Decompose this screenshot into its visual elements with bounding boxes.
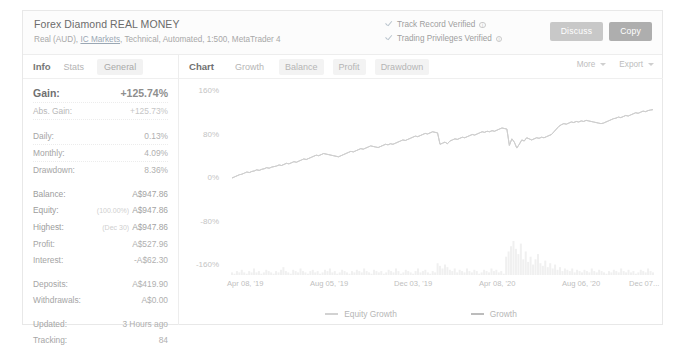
legend-item-equity-growth[interactable]: Equity Growth <box>325 309 397 319</box>
more-label: More <box>577 60 596 69</box>
system-title: Forex Diamond REAL MONEY <box>34 17 281 31</box>
chevron-down-icon <box>600 63 606 66</box>
subtitle-prefix: Real (AUD), <box>34 35 78 44</box>
x-axis-tick: Dec 07... <box>629 279 659 288</box>
stat-row-interest: Interest: -A$62.30 <box>33 253 168 268</box>
x-axis-tick: Dec 03, '19 <box>394 279 432 288</box>
stat-label: Balance: <box>33 187 66 201</box>
tab-general[interactable]: General <box>97 59 143 75</box>
stat-row-updated: Updated: 3 Hours ago <box>33 317 168 332</box>
legend-line-icon <box>471 313 484 314</box>
stat-value: A$419.90 <box>132 277 168 291</box>
stat-value: 4.09% <box>144 146 168 160</box>
spacer <box>33 179 168 187</box>
stat-label: Deposits: <box>33 277 68 291</box>
tab-stats[interactable]: Stats <box>64 62 85 72</box>
export-dropdown[interactable]: Export <box>619 60 654 69</box>
tab-chart[interactable]: Chart <box>189 58 220 75</box>
spacer <box>33 121 168 129</box>
stat-value: +125.74% <box>120 86 168 100</box>
info-icon[interactable]: i <box>479 22 486 29</box>
info-panel: Info Stats General Gain: +125.74% Abs. G… <box>23 55 179 325</box>
tab-profit[interactable]: Profit <box>333 59 366 75</box>
chevron-down-icon <box>648 63 654 66</box>
x-axis-tick: Aug 06, '20 <box>562 279 600 288</box>
stat-label: Withdrawals: <box>33 293 81 307</box>
stat-row-highest: Highest: (Dec 30)A$947.86 <box>33 220 168 236</box>
system-subtitle: Real (AUD), IC Markets, Technical, Autom… <box>34 33 281 46</box>
chart-tabs: Chart Growth Balance Profit Drawdown Mor… <box>179 55 663 79</box>
info-icon[interactable]: i <box>496 36 503 43</box>
legend-label: Growth <box>490 309 517 319</box>
chart-controls: More Export <box>577 60 654 69</box>
stat-row-equity: Equity: (100.00%)A$947.86 <box>33 203 168 219</box>
x-axis-tick: Apr 08, '19 <box>227 279 264 288</box>
export-label: Export <box>619 60 643 69</box>
check-icon <box>385 35 393 43</box>
tab-drawdown[interactable]: Drawdown <box>375 59 430 75</box>
stat-label: Highest: <box>33 220 64 234</box>
stat-row-daily: Daily: 0.13% <box>33 129 168 145</box>
stat-label: Gain: <box>33 86 60 100</box>
broker-link[interactable]: IC Markets <box>80 35 120 44</box>
check-icon <box>385 21 393 29</box>
y-axis-tick: 0% <box>179 173 219 182</box>
trading-privileges-label: Trading Privileges Verified <box>397 32 492 46</box>
stat-label: Tracking: <box>33 333 67 345</box>
card-header: Forex Diamond REAL MONEY Real (AUD), IC … <box>23 11 662 55</box>
stat-value: A$0.00 <box>141 293 168 307</box>
system-card: Forex Diamond REAL MONEY Real (AUD), IC … <box>22 10 663 325</box>
equity-percent-note: (100.00%) <box>97 207 129 214</box>
tab-growth[interactable]: Growth <box>229 59 270 75</box>
verification-badges: Track Record Verified i Trading Privileg… <box>385 18 502 46</box>
x-axis-tick: Aug 05, '19 <box>310 279 348 288</box>
y-axis-tick: -80% <box>179 217 219 226</box>
y-axis-tick: 160% <box>179 86 219 95</box>
stat-label: Daily: <box>33 129 54 143</box>
stat-value: A$527.96 <box>132 237 168 251</box>
stat-row-gain: Gain: +125.74% <box>33 86 168 103</box>
stat-row-profit: Profit: A$527.96 <box>33 237 168 252</box>
y-axis-tick: 80% <box>179 130 219 139</box>
spacer <box>33 269 168 277</box>
stat-label: Equity: <box>33 203 59 217</box>
chart-legend: Equity Growth Growth <box>179 309 663 319</box>
stat-row-deposits: Deposits: A$419.90 <box>33 277 168 292</box>
stat-row-tracking: Tracking: 84 <box>33 333 168 345</box>
more-dropdown[interactable]: More <box>577 60 607 69</box>
subtitle-rest: , Technical, Automated, 1:500, MetaTrade… <box>120 35 281 44</box>
stat-value: 3 Hours ago <box>122 317 168 331</box>
stat-label: Interest: <box>33 253 63 267</box>
equity-amount: A$947.86 <box>132 205 168 215</box>
legend-line-icon <box>325 313 338 314</box>
stat-value: +125.73% <box>130 104 168 118</box>
tab-balance[interactable]: Balance <box>279 59 324 75</box>
stat-value: 8.36% <box>144 163 168 177</box>
stat-label: Drawdown: <box>33 163 75 177</box>
x-axis-tick: Apr 08, '20 <box>479 279 516 288</box>
copy-button[interactable]: Copy <box>609 22 652 41</box>
highest-date-note: (Dec 30) <box>102 224 129 231</box>
stat-row-withdrawals: Withdrawals: A$0.00 <box>33 293 168 308</box>
track-record-label: Track Record Verified <box>397 18 475 32</box>
y-axis-tick: -160% <box>179 260 219 269</box>
stat-label: Monthly: <box>33 146 65 160</box>
system-identity: Forex Diamond REAL MONEY Real (AUD), IC … <box>34 17 281 46</box>
stat-label: Updated: <box>33 317 67 331</box>
screenshot-root: Forex Diamond REAL MONEY Real (AUD), IC … <box>0 0 685 345</box>
discuss-button[interactable]: Discuss <box>550 22 603 41</box>
stat-value: -A$62.30 <box>134 253 168 267</box>
info-tabs: Info Stats General <box>23 55 178 79</box>
stat-row-abs-gain: Abs. Gain: +125.73% <box>33 104 168 120</box>
spacer <box>33 309 168 317</box>
growth-chart[interactable]: 160%80%0%-80%-160% Apr 08, '19Aug 05, '1… <box>179 79 663 325</box>
stat-value: (Dec 30)A$947.86 <box>102 220 168 235</box>
stat-value: 0.13% <box>144 129 168 143</box>
tab-info[interactable]: Info <box>33 61 51 72</box>
card-body: Info Stats General Gain: +125.74% Abs. G… <box>23 55 662 325</box>
stat-label: Abs. Gain: <box>33 104 72 118</box>
chart-panel: Chart Growth Balance Profit Drawdown Mor… <box>179 55 663 325</box>
legend-item-growth[interactable]: Growth <box>471 309 517 319</box>
stat-value: A$947.86 <box>132 187 168 201</box>
stat-row-monthly: Monthly: 4.09% <box>33 146 168 162</box>
